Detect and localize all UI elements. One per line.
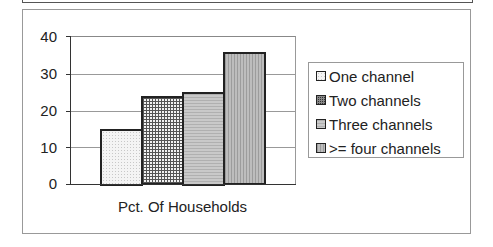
- x-axis: [66, 184, 296, 185]
- legend-label: One channel: [329, 68, 414, 85]
- bar-three-channels: [182, 92, 225, 186]
- bar-four-plus-channels: [223, 52, 266, 185]
- y-tick-label: 30: [20, 66, 57, 82]
- legend-swatch-icon: [316, 95, 326, 105]
- bar-one-channel: [100, 129, 143, 186]
- x-axis-label: Pct. Of Households: [70, 198, 295, 215]
- legend-label: >= four channels: [329, 140, 441, 157]
- legend-item-four-plus-channels: >= four channels: [316, 139, 441, 157]
- y-tick-label: 40: [20, 29, 57, 45]
- legend-swatch-icon: [316, 143, 326, 153]
- legend-swatch-icon: [316, 71, 326, 81]
- y-tick-label: 10: [20, 140, 57, 156]
- y-tick-label: 20: [20, 103, 57, 119]
- bar-two-channels: [141, 96, 184, 186]
- legend-label: Three channels: [329, 116, 432, 133]
- legend: One channel Two channels Three channels …: [308, 62, 464, 158]
- y-tick-label: 0: [20, 176, 57, 192]
- legend-label: Two channels: [329, 92, 421, 109]
- legend-swatch-icon: [316, 119, 326, 129]
- previous-figure-frame: [22, 0, 473, 3]
- legend-item-two-channels: Two channels: [316, 91, 421, 109]
- legend-item-one-channel: One channel: [316, 67, 414, 85]
- y-axis: [70, 36, 71, 185]
- legend-item-three-channels: Three channels: [316, 115, 432, 133]
